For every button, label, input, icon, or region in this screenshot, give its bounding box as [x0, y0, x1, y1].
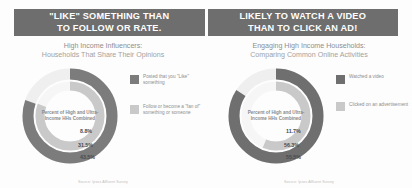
donut-left-callout-1: 31.5% [78, 142, 93, 148]
legend-label: Posted that you "Like" something [143, 74, 204, 86]
panel-right-subtitle-line1: Engaging High Income Households: [206, 42, 412, 51]
donut-right-callout-0: 11.7% [286, 128, 301, 134]
legend-item: Follow or become a "fan of" something or… [130, 104, 204, 116]
legend-swatch-icon [130, 105, 139, 114]
panel-right-subtitle: Engaging High Income Households: Compari… [206, 42, 412, 60]
donut-left-callout-2: 43.5% [80, 154, 95, 160]
panel-left-subtitle-line2: Households That Share Their Opinions [0, 51, 206, 60]
donut-right-svg [224, 64, 328, 168]
header-left-line1: "LIKE" SOMETHING THAN [49, 11, 169, 22]
legend-swatch-icon [336, 102, 345, 111]
donut-chart-left: Percent of High and Ultra-Income HHs Com… [18, 64, 122, 168]
panel-left-subtitle-line1: High Income Influencers: [0, 42, 206, 51]
infographic-poster: "LIKE" SOMETHING THAN TO FOLLOW OR RATE.… [0, 0, 412, 188]
legend-label: Clicked on an advertisement [349, 102, 408, 108]
panel-right: Engaging High Income Households: Compari… [206, 38, 412, 188]
donut-left-callout-0: 8.8% [80, 128, 92, 134]
legend-swatch-icon [336, 75, 345, 84]
header-band: "LIKE" SOMETHING THAN TO FOLLOW OR RATE.… [14, 9, 398, 36]
legend-item: Watched a video [336, 74, 410, 84]
header-cell-right: LIKELY TO WATCH A VIDEO THAN TO CLICK AN… [208, 9, 399, 36]
legend-right: Watched a video Clicked on an advertisem… [336, 74, 410, 129]
legend-left: Posted that you "Like" something Follow … [130, 74, 204, 134]
panel-left-subtitle: High Income Influencers: Households That… [0, 42, 206, 60]
donut-right-callout-1: 56.3% [284, 142, 299, 148]
panel-right-subtitle-line2: Comparing Common Online Activities [206, 51, 412, 60]
legend-item: Clicked on an advertisement [336, 102, 410, 112]
legend-label: Follow or become a "fan of" something or… [143, 104, 204, 116]
header-cell-left: "LIKE" SOMETHING THAN TO FOLLOW OR RATE. [14, 9, 205, 36]
panel-left: High Income Influencers: Households That… [0, 38, 206, 188]
legend-swatch-icon [130, 75, 139, 84]
donut-left-svg [18, 64, 122, 168]
header-right-line1: LIKELY TO WATCH A VIDEO [239, 11, 366, 22]
panel-right-footnote: Source: Ipsos Affluent Survey [206, 180, 412, 184]
panels-row: High Income Influencers: Households That… [0, 38, 412, 188]
header-left-line2: TO FOLLOW OR RATE. [57, 23, 161, 34]
donut-right-callout-2: 55.5% [286, 154, 301, 160]
donut-chart-right: Percent of High and Ultra-Income HHs Com… [224, 64, 328, 168]
legend-item: Posted that you "Like" something [130, 74, 204, 86]
panel-left-footnote: Source: Ipsos Affluent Survey [0, 180, 206, 184]
legend-label: Watched a video [349, 74, 384, 80]
header-right-line2: THAN TO CLICK AN AD! [248, 23, 357, 34]
